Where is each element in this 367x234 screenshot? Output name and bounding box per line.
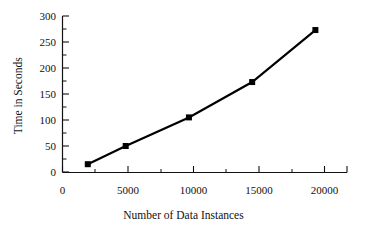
- x-axis-title: Number of Data Instances: [0, 210, 367, 222]
- data-point-marker: [85, 161, 91, 167]
- y-axis-title: Time in Seconds: [13, 41, 25, 151]
- x-axis-major-ticks: [63, 166, 348, 173]
- x-tick-label-0: 0: [43, 185, 83, 196]
- x-tick-label-15000: 15000: [239, 185, 279, 196]
- x-tick-label-5000: 5000: [108, 185, 148, 196]
- series-line: [88, 30, 316, 164]
- line-chart: 300 250 200 150 100 50 0 0 5000 10000 15…: [0, 0, 367, 234]
- y-tick-label-0: 0: [20, 167, 56, 178]
- y-tick-label-50: 50: [20, 141, 56, 152]
- x-tick-label-20000: 20000: [305, 185, 345, 196]
- series-markers: [85, 27, 319, 167]
- y-tick-label-300: 300: [20, 11, 56, 22]
- y-tick-label-100: 100: [20, 115, 56, 126]
- data-point-marker: [186, 114, 192, 120]
- y-tick-label-200: 200: [20, 63, 56, 74]
- data-point-marker: [249, 79, 255, 85]
- data-point-marker: [312, 27, 318, 33]
- data-point-marker: [123, 143, 129, 149]
- x-tick-label-10000: 10000: [174, 185, 214, 196]
- y-tick-label-250: 250: [20, 37, 56, 48]
- y-axis-major-ticks: [63, 16, 70, 172]
- y-tick-label-150: 150: [20, 89, 56, 100]
